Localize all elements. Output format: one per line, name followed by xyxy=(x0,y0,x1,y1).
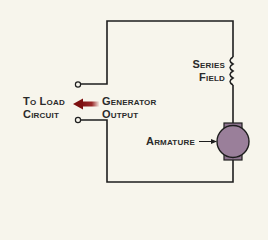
series-line1: Series xyxy=(190,58,225,71)
wire-lower xyxy=(81,120,233,182)
terminal-lower-icon xyxy=(75,117,80,122)
to-load-line2: Circuit xyxy=(23,108,65,121)
output-arrow-icon xyxy=(73,99,99,110)
terminal-upper-icon xyxy=(75,82,80,87)
armature-icon xyxy=(217,123,249,160)
to-load-circuit-label: To Load Circuit xyxy=(23,95,65,121)
generator-line1: Generator xyxy=(102,95,157,108)
armature-pointer-arrowhead-icon xyxy=(211,139,217,144)
generator-output-label: Generator Output xyxy=(102,95,157,121)
series-field-label: Series Field xyxy=(190,58,225,84)
armature-text: Armature xyxy=(146,135,195,147)
generator-line2: Output xyxy=(102,108,157,121)
armature-label: Armature xyxy=(146,135,195,148)
to-load-line1: To Load xyxy=(23,95,65,108)
series-line2: Field xyxy=(190,71,225,84)
series-field-coil-icon xyxy=(230,57,233,85)
